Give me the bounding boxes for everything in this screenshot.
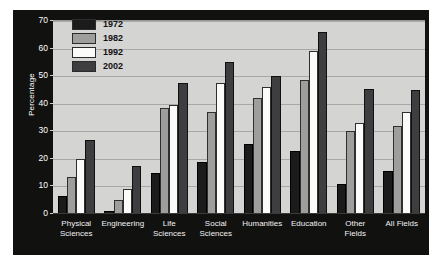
y-tick-mark-30 (50, 130, 53, 131)
x-axis-label-line: Fields (325, 229, 386, 239)
x-axis-label-line: Sciences (46, 229, 107, 239)
legend-swatch-1982 (72, 33, 96, 44)
bar (151, 173, 160, 214)
bar (114, 200, 123, 214)
bar (58, 196, 67, 214)
bar (309, 51, 318, 214)
bar (290, 151, 299, 214)
y-tick-mark-10 (50, 185, 53, 186)
bar (355, 123, 364, 214)
legend-entry: 1972 (72, 18, 150, 32)
legend-entry: 2002 (72, 60, 150, 74)
bar (85, 140, 94, 214)
bar (123, 189, 132, 214)
legend-label: 1972 (103, 19, 123, 30)
x-axis-label: All Fields (372, 219, 433, 229)
bar (225, 62, 234, 214)
x-axis-labels: PhysicalSciencesEngineeringLifeSciencesS… (53, 214, 429, 255)
bar (160, 108, 169, 214)
bar-group (239, 21, 286, 214)
y-tick-label-0: 0 (18, 209, 48, 217)
chart-legend: 1972198219922002 (72, 18, 150, 74)
y-tick-label-30: 30 (18, 126, 48, 134)
bar (207, 112, 216, 214)
bar-group (332, 21, 379, 214)
bar (262, 87, 271, 214)
y-tick-mark-40 (50, 103, 53, 104)
y-tick-label-10: 10 (18, 181, 48, 189)
y-tick-mark-70 (50, 20, 53, 21)
bar-group (286, 21, 333, 214)
y-tick-label-60: 60 (18, 44, 48, 52)
bar (383, 171, 392, 214)
bar (271, 76, 280, 214)
y-tick-mark-50 (50, 75, 53, 76)
bar (364, 89, 373, 214)
bar-group (146, 21, 193, 214)
bar (178, 83, 187, 214)
bar (76, 159, 85, 214)
legend-label: 2002 (103, 61, 123, 72)
bar (393, 126, 402, 214)
bar (346, 131, 355, 214)
y-tick-label-40: 40 (18, 99, 48, 107)
bar-group (379, 21, 426, 214)
bar (411, 90, 420, 214)
chart-figure: Percentage 010203040506070 1972198219922… (0, 0, 441, 266)
legend-label: 1992 (103, 47, 123, 58)
legend-swatch-1972 (72, 19, 96, 30)
bar (197, 162, 206, 214)
bar-group (193, 21, 240, 214)
bar (318, 32, 327, 214)
bar (402, 112, 411, 214)
legend-label: 1982 (103, 33, 123, 44)
y-tick-mark-60 (50, 48, 53, 49)
y-tick-label-50: 50 (18, 71, 48, 79)
bar (300, 80, 309, 214)
y-tick-label-20: 20 (18, 154, 48, 162)
bar (169, 105, 178, 214)
legend-swatch-2002 (72, 61, 96, 72)
bar (132, 166, 141, 214)
legend-entry: 1992 (72, 46, 150, 60)
y-tick-label-70: 70 (18, 16, 48, 24)
bar (216, 83, 225, 214)
bar (253, 98, 262, 214)
legend-swatch-1992 (72, 47, 96, 58)
bar (244, 144, 253, 214)
y-axis-title: Percentage (27, 55, 36, 135)
bar (67, 177, 76, 214)
x-axis-label-line: Sciences (186, 229, 247, 239)
y-tick-mark-20 (50, 158, 53, 159)
legend-entry: 1982 (72, 32, 150, 46)
x-axis-label-line: All Fields (372, 219, 433, 229)
bar (337, 184, 346, 214)
